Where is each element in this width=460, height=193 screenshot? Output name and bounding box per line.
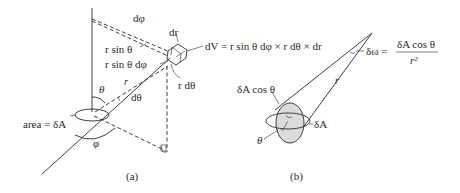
dv-leader	[187, 46, 203, 51]
label-r-sin-theta: r sin θ	[105, 43, 132, 55]
d-theta-arc	[118, 97, 119, 101]
caption-a: (a)	[126, 170, 139, 183]
spherical-coordinates-figure: dφ dr dV = r sin θ dφ × r dθ × dr r sin …	[0, 0, 460, 193]
label-r-dtheta: r dθ	[178, 79, 195, 91]
r-dtheta-leader	[171, 64, 180, 78]
label-theta-b: θ	[257, 134, 263, 146]
r-sin-theta-leader	[140, 44, 146, 47]
base-projection	[94, 116, 164, 150]
projected-area-ellipse	[276, 103, 304, 143]
label-delta-a: δA	[314, 118, 327, 130]
label-dA-cos-theta: δA cos θ	[237, 83, 275, 95]
label-d-theta: dθ	[131, 91, 142, 103]
label-theta: θ	[99, 83, 105, 95]
label-r: r	[124, 76, 128, 87]
label-d-phi: dφ	[133, 12, 145, 24]
label-phi: φ	[93, 137, 99, 149]
theta-leader-b	[264, 130, 278, 139]
theta-arc	[92, 97, 105, 103]
label-fraction-denominator: r²	[410, 54, 418, 66]
caption-b: (b)	[290, 170, 303, 183]
label-area: area = δA	[23, 118, 66, 130]
label-dv-formula: dV = r sin θ dφ × r dθ × dr	[205, 40, 322, 52]
panel-a: dφ dr dV = r sin θ dφ × r dθ × dr r sin …	[23, 8, 322, 183]
volume-element	[167, 44, 187, 65]
label-fraction-numerator: δA cos θ	[397, 38, 435, 50]
label-r-b: r	[335, 75, 339, 86]
label-delta-omega: δω =	[366, 45, 387, 57]
radial-line	[42, 58, 170, 174]
label-r-sin-theta-dphi: r sin θ dφ	[105, 58, 147, 70]
label-dr: dr	[169, 26, 179, 38]
area-leader	[70, 115, 75, 116]
delta-omega-arc	[350, 52, 355, 54]
d-theta-ray	[95, 66, 168, 112]
panel-b: δω = δA cos θ r² δA cos θ r δA θ (b)	[237, 33, 438, 183]
